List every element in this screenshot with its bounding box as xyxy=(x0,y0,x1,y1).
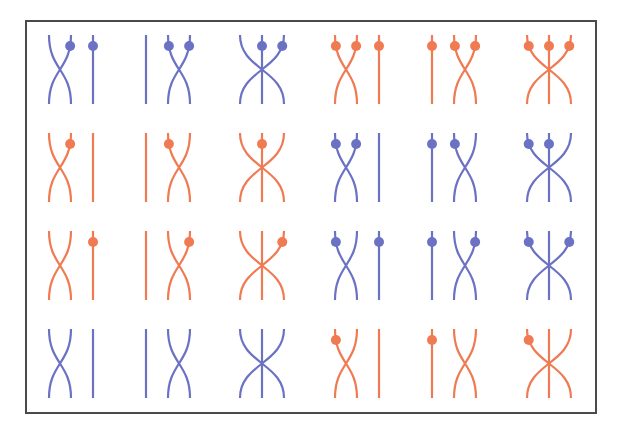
strand-2 xyxy=(49,231,71,300)
marked-point-dot xyxy=(524,41,534,51)
braid-cell-r3-c4 xyxy=(331,231,384,300)
marked-point-dot xyxy=(564,41,574,51)
diagram-row-1 xyxy=(49,35,574,104)
braid-cell-r4-c6 xyxy=(524,329,571,398)
braid-diagram-grid xyxy=(0,0,618,434)
braid-cell-r3-c1 xyxy=(49,231,98,300)
braid-cell-r2-c2 xyxy=(146,133,190,202)
marked-point-dot xyxy=(544,41,554,51)
marked-point-dot xyxy=(564,237,574,247)
marked-point-dot xyxy=(331,41,341,51)
marked-point-dot xyxy=(524,237,534,247)
braid-cell-r3-c3 xyxy=(240,231,287,300)
marked-point-dot xyxy=(277,237,287,247)
braid-cell-r2-c5 xyxy=(427,133,476,202)
braid-cell-r1-c2 xyxy=(146,35,194,104)
marked-point-dot xyxy=(544,139,554,149)
braid-cell-r2-c1 xyxy=(49,133,93,202)
braid-cell-r3-c5 xyxy=(427,231,480,300)
marked-point-dot xyxy=(257,41,267,51)
marked-point-dot xyxy=(524,139,534,149)
marked-point-dot xyxy=(65,139,75,149)
marked-point-dot xyxy=(427,335,437,345)
strand-3 xyxy=(168,329,190,398)
braid-cell-r2-c3 xyxy=(240,133,284,202)
marked-point-dot xyxy=(331,139,341,149)
marked-point-dot xyxy=(164,139,174,149)
marked-point-dot xyxy=(277,41,287,51)
marked-point-dot xyxy=(184,41,194,51)
braid-cell-r3-c2 xyxy=(146,231,194,300)
marked-point-dot xyxy=(88,41,98,51)
strand-3 xyxy=(454,329,476,398)
marked-point-dot xyxy=(331,335,341,345)
braid-cell-r1-c3 xyxy=(240,35,287,104)
marked-point-dot xyxy=(450,41,460,51)
braid-cell-r4-c2 xyxy=(146,329,190,398)
marked-point-dot xyxy=(65,41,75,51)
marked-point-dot xyxy=(351,139,361,149)
braid-cell-r1-c1 xyxy=(49,35,98,104)
strand-2 xyxy=(49,329,71,398)
marked-point-dot xyxy=(524,335,534,345)
braid-cell-r1-c6 xyxy=(524,35,575,104)
marked-point-dot xyxy=(88,237,98,247)
diagram-row-4 xyxy=(49,329,571,398)
braid-cell-r1-c4 xyxy=(331,35,384,104)
marked-point-dot xyxy=(164,41,174,51)
marked-point-dot xyxy=(427,139,437,149)
braid-cell-r4-c3 xyxy=(240,329,284,398)
marked-point-dot xyxy=(427,237,437,247)
marked-point-dot xyxy=(427,41,437,51)
braid-cell-r2-c4 xyxy=(331,133,379,202)
marked-point-dot xyxy=(374,237,384,247)
marked-point-dot xyxy=(351,41,361,51)
diagram-row-2 xyxy=(49,133,571,202)
braid-cell-r3-c6 xyxy=(524,231,575,300)
marked-point-dot xyxy=(470,41,480,51)
braid-cell-r1-c5 xyxy=(427,35,480,104)
marked-point-dot xyxy=(184,237,194,247)
marked-point-dot xyxy=(331,237,341,247)
braid-cell-r4-c4 xyxy=(331,329,379,398)
marked-point-dot xyxy=(470,237,480,247)
marked-point-dot xyxy=(450,139,460,149)
braid-cell-r4-c5 xyxy=(427,329,476,398)
braid-cell-r4-c1 xyxy=(49,329,93,398)
braid-cell-r2-c6 xyxy=(524,133,571,202)
marked-point-dot xyxy=(374,41,384,51)
diagram-row-3 xyxy=(49,231,574,300)
marked-point-dot xyxy=(257,139,267,149)
